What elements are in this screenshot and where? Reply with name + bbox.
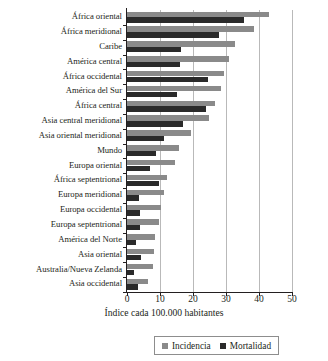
y-axis-label: África occidental xyxy=(0,72,122,81)
bar-incidencia xyxy=(127,115,209,120)
bar-mortalidad xyxy=(127,106,206,111)
legend-label: Incidencia xyxy=(172,341,211,351)
bar-mortalidad xyxy=(127,270,134,275)
bar-incidencia xyxy=(127,101,215,106)
x-axis-tick-labels: 01020304050 xyxy=(0,294,328,308)
bar-mortalidad xyxy=(127,195,139,200)
y-axis-label: Asia occidental xyxy=(0,279,122,288)
x-axis-tick-label: 0 xyxy=(115,294,139,305)
bar-mortalidad xyxy=(127,151,156,156)
x-axis-line xyxy=(126,292,293,293)
bar-incidencia xyxy=(127,219,159,224)
legend-item-mortalidad: Mortalidad xyxy=(220,341,271,351)
bar-mortalidad xyxy=(127,240,136,245)
y-axis-label: Australia/Nueva Zelanda xyxy=(0,265,122,274)
y-axis-label: Asia oriental meridional xyxy=(0,131,122,140)
bar-mortalidad xyxy=(127,92,177,97)
gridline-40 xyxy=(259,10,260,292)
y-axis-label: América central xyxy=(0,57,122,66)
bar-incidencia xyxy=(127,12,269,17)
gridline-20 xyxy=(193,10,194,292)
bar-mortalidad xyxy=(127,284,138,289)
chart-legend: IncidenciaMortalidad xyxy=(154,336,279,355)
bar-mortalidad xyxy=(127,121,183,126)
bar-mortalidad xyxy=(127,62,180,67)
bar-mortalidad xyxy=(127,136,164,141)
bar-incidencia xyxy=(127,56,229,61)
gridline-50 xyxy=(292,10,293,292)
y-axis-label: Caribe xyxy=(0,42,122,51)
y-axis-label: Europa occidental xyxy=(0,205,122,214)
x-axis-tick-label: 10 xyxy=(148,294,172,305)
y-axis-label: América del Sur xyxy=(0,86,122,95)
x-axis-tick-label: 40 xyxy=(247,294,271,305)
x-axis-tick-label: 30 xyxy=(214,294,238,305)
y-axis-label: Europa septentrional xyxy=(0,220,122,229)
y-axis-label: Mundo xyxy=(0,146,122,155)
bar-incidencia xyxy=(127,279,148,284)
gridline-30 xyxy=(226,10,227,292)
bar-incidencia xyxy=(127,86,221,91)
bar-incidencia xyxy=(127,41,235,46)
y-axis-label: Europa meridional xyxy=(0,190,122,199)
bar-incidencia xyxy=(127,190,164,195)
y-axis-label: África meridional xyxy=(0,27,122,36)
bar-mortalidad xyxy=(127,77,208,82)
bar-incidencia xyxy=(127,160,175,165)
x-axis-title: Índice cada 100.000 habitantes xyxy=(0,307,328,318)
legend-label: Mortalidad xyxy=(230,341,271,351)
x-axis-tick-label: 20 xyxy=(181,294,205,305)
plot-area xyxy=(127,10,292,292)
x-axis-tick-label: 50 xyxy=(280,294,304,305)
y-axis-category-labels: África orientalÁfrica meridionalCaribeAm… xyxy=(0,10,122,292)
y-axis-label: Europa oriental xyxy=(0,161,122,170)
bar-incidencia xyxy=(127,130,191,135)
y-axis-label: África septentrional xyxy=(0,175,122,184)
bar-incidencia xyxy=(127,175,167,180)
bar-mortalidad xyxy=(127,225,140,230)
legend-swatch-icon xyxy=(162,343,168,349)
y-axis-label: África oriental xyxy=(0,12,122,21)
bar-mortalidad xyxy=(127,210,140,215)
bar-mortalidad xyxy=(127,181,159,186)
bar-mortalidad xyxy=(127,255,141,260)
bar-mortalidad xyxy=(127,17,244,22)
bar-mortalidad xyxy=(127,166,150,171)
bar-mortalidad xyxy=(127,47,181,52)
bar-incidencia xyxy=(127,264,153,269)
bar-chart: África orientalÁfrica meridionalCaribeAm… xyxy=(0,0,328,361)
bar-incidencia xyxy=(127,71,224,76)
bar-incidencia xyxy=(127,249,154,254)
y-axis-label: Asia central meridional xyxy=(0,116,122,125)
bar-incidencia xyxy=(127,26,254,31)
y-axis-label: Asia oriental xyxy=(0,250,122,259)
y-axis-label: África central xyxy=(0,101,122,110)
bar-mortalidad xyxy=(127,32,219,37)
bar-incidencia xyxy=(127,145,179,150)
bar-incidencia xyxy=(127,234,155,239)
y-axis-label: América del Norte xyxy=(0,235,122,244)
legend-item-incidencia: Incidencia xyxy=(162,341,211,351)
bar-incidencia xyxy=(127,205,161,210)
legend-swatch-icon xyxy=(220,343,226,349)
